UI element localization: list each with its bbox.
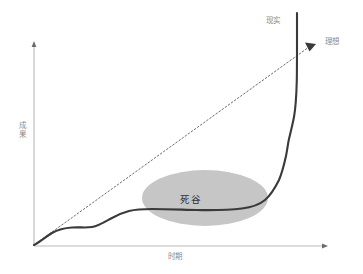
y-axis <box>32 41 37 246</box>
death-valley-label: 死谷 <box>180 192 201 206</box>
x-axis <box>34 244 328 249</box>
reality-series-label: 现实 <box>266 17 281 26</box>
chart-canvas <box>0 0 363 274</box>
ideal-series-label: 理想 <box>325 38 340 47</box>
x-axis-label: 时期 <box>168 253 183 262</box>
valley-of-death-chart: 成果 时期 现实 理想 死谷 <box>0 0 363 274</box>
death-valley-ellipse <box>142 170 268 226</box>
ideal-arrow-icon <box>305 43 316 52</box>
x-axis-arrow-icon <box>322 244 328 249</box>
y-axis-label: 成果 <box>18 122 28 139</box>
y-axis-arrow-icon <box>32 41 37 47</box>
